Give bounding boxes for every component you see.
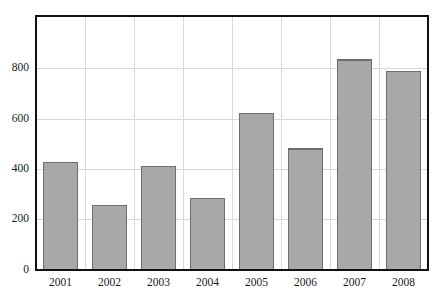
bar-2003 (142, 166, 176, 270)
bar-2001 (44, 162, 78, 270)
x-tick-label-2001: 2001 (49, 276, 72, 288)
y-tick-label-600: 600 (12, 112, 30, 124)
x-tick-label-2007: 2007 (343, 276, 366, 288)
bar-chart-figure: 0200400600800 20012002200320042005200620… (0, 0, 448, 306)
x-tick-label-2005: 2005 (245, 276, 268, 288)
bar-2005 (240, 114, 274, 270)
bar-2008 (387, 71, 421, 270)
bar-2002 (93, 206, 127, 270)
y-tick-label-200: 200 (12, 212, 30, 224)
bar-2007 (338, 60, 372, 270)
x-tick-label-2006: 2006 (294, 276, 317, 288)
x-tick-label-2004: 2004 (196, 276, 219, 288)
bar-2006 (289, 149, 323, 270)
x-tick-label-2008: 2008 (392, 276, 415, 288)
bar-2004 (191, 199, 225, 270)
x-tick-label-2003: 2003 (147, 276, 170, 288)
x-tick-label-2002: 2002 (98, 276, 121, 288)
y-tick-label-800: 800 (12, 61, 30, 73)
y-tick-label-400: 400 (12, 162, 30, 174)
chart-canvas: 0200400600800 20012002200320042005200620… (0, 0, 448, 306)
y-tick-label-0: 0 (23, 263, 29, 275)
